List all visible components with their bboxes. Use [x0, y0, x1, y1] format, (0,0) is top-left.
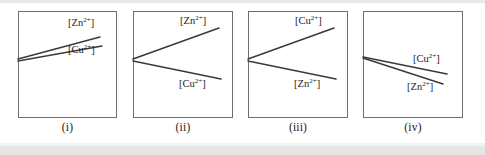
panel-ii-caption: (ii) [133, 121, 233, 133]
panel-ii-label-copper: [Cu2+] [179, 79, 206, 90]
panel-i-caption: (i) [18, 121, 117, 133]
panel-iv-caption: (iv) [363, 121, 463, 133]
panel-iv-plot [363, 11, 463, 118]
panel-iii-label-zinc: [Zn2+] [294, 79, 320, 90]
panel-i-label-zinc: [Zn2+] [68, 18, 94, 29]
panel-iii-line-copper [248, 28, 334, 59]
panel-i-label-copper: [Cu2+] [68, 45, 95, 56]
panel-iv-label-copper: [Cu2+] [413, 54, 440, 65]
panel-ii-line-copper [133, 61, 221, 79]
panel-ii-line-zinc [133, 28, 219, 59]
page-edge-top [0, 0, 485, 3]
panel-iii: [Cu2+] [Zn2+] (iii) [248, 11, 348, 118]
figure-root: [Zn2+] [Cu2+] (i) [Zn2+] [Cu2+] (ii) [Cu… [0, 0, 485, 155]
panel-iii-line-zinc [248, 61, 336, 79]
panel-i: [Zn2+] [Cu2+] (i) [18, 11, 117, 118]
panel-ii-label-zinc: [Zn2+] [180, 16, 206, 27]
panel-iv: [Cu2+] [Zn2+] (iv) [363, 11, 463, 118]
panel-iii-plot [248, 11, 348, 118]
panel-ii-plot [133, 11, 233, 118]
panel-iv-label-zinc: [Zn2+] [407, 82, 433, 93]
panel-ii: [Zn2+] [Cu2+] (ii) [133, 11, 233, 118]
panel-iii-label-copper: [Cu2+] [295, 16, 322, 27]
panel-iii-caption: (iii) [248, 121, 348, 133]
page-edge-bottom [0, 146, 485, 155]
